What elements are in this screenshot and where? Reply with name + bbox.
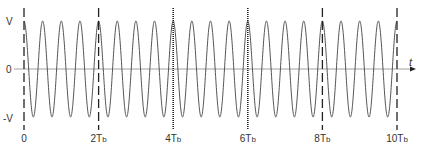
marker-label-0: 0	[21, 133, 27, 144]
bit-period-markers: 02Tb4Tb6Tb8Tb10Tb	[21, 8, 408, 144]
time-axis-label: t	[409, 56, 413, 68]
amplitude-label-negative: -V	[3, 113, 13, 124]
marker-label-4: 8Tb	[314, 133, 331, 144]
marker-label-3: 6Tb	[240, 133, 257, 144]
waveform-diagram: t V 0 -V 02Tb4Tb6Tb8Tb10Tb	[0, 0, 423, 151]
marker-label-2: 4Tb	[165, 133, 182, 144]
amplitude-label-positive: V	[6, 16, 13, 27]
marker-label-5: 10Tb	[386, 133, 408, 144]
amplitude-label-zero: 0	[6, 64, 12, 75]
marker-label-1: 2Tb	[91, 133, 108, 144]
